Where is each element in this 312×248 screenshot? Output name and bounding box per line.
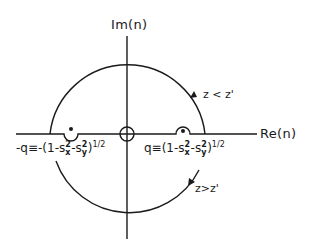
lower-contour-label: z>z' [195,183,219,194]
sx-term: 2x [65,142,71,156]
real-axis-label: Re(n) [260,127,296,140]
sx-subscript: x [185,149,190,157]
pos-pole-mid: -s [191,141,202,155]
sy-subscript: y [82,149,87,157]
sx-term: 2x [185,142,191,156]
neg-pole-label: -q≡-(1-s2x-s2y)1/2 [16,141,105,156]
pos-pole-label: q≡(1-s2x-s2y)1/2 [144,141,225,156]
upper-contour-label: z < z' [203,89,234,100]
imaginary-axis-label: Im(n) [111,18,147,31]
sy-term: 2y [201,142,207,156]
neg-pole-power: 1/2 [93,140,106,149]
sy-term: 2y [82,142,88,156]
sx-subscript: x [65,149,70,157]
real-axis [16,127,257,141]
contour-diagram [0,0,312,248]
pole-dot-neg-q [69,127,73,131]
pole-dot-pos-q [181,129,185,133]
arrow-up-icon [190,91,197,98]
pos-pole-lhs: q≡(1-s [144,141,185,155]
sy-subscript: y [201,149,206,157]
neg-pole-mid: -s [71,141,82,155]
neg-pole-lhs: -q≡-(1-s [16,141,65,155]
pos-pole-power: 1/2 [212,140,225,149]
